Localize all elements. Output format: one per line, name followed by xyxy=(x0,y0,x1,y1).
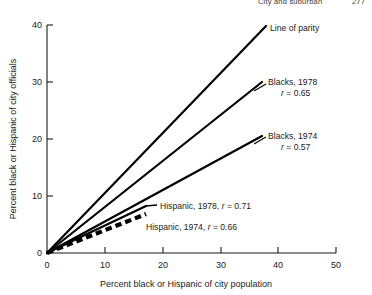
chart-annotations: Line of parity Blacks, 1978 r = 0.65 Bla… xyxy=(146,23,320,232)
y-tick-label-0: 0 xyxy=(37,248,42,258)
x-axis-title: Percent black or Hispanic of city popula… xyxy=(100,279,272,289)
scatter-line-chart: 40 30 20 10 0 0 10 20 30 40 50 Percent b… xyxy=(0,0,372,295)
annotation-blacks-1974-label: Blacks, 1974 xyxy=(268,131,317,141)
chart-series-lines xyxy=(47,26,266,253)
y-tick-label-10: 10 xyxy=(32,191,42,201)
series-hispanic-1974 xyxy=(47,214,146,253)
x-tick-label-0: 0 xyxy=(44,260,49,270)
x-tick-label-40: 40 xyxy=(273,260,283,270)
annotation-blacks-1974-r: r = 0.57 xyxy=(281,142,311,152)
y-tick-label-20: 20 xyxy=(32,134,42,144)
annotation-leader-lines xyxy=(146,84,266,206)
annotation-hispanic-1974: Hispanic, 1974, r = 0.66 xyxy=(146,222,237,232)
y-axis-ticks xyxy=(47,25,53,196)
y-tick-label-30: 30 xyxy=(32,77,42,87)
x-tick-labels: 0 10 20 30 40 50 xyxy=(44,260,341,270)
x-tick-label-20: 20 xyxy=(158,260,168,270)
x-tick-label-50: 50 xyxy=(331,260,341,270)
annotation-blacks-1978-label: Blacks, 1978 xyxy=(268,77,317,87)
y-tick-labels: 40 30 20 10 0 xyxy=(32,20,42,258)
x-axis-ticks xyxy=(105,247,336,253)
series-line-of-parity xyxy=(47,26,266,253)
x-tick-label-10: 10 xyxy=(100,260,110,270)
annotation-blacks-1978-r: r = 0.65 xyxy=(281,88,311,98)
annotation-line-of-parity: Line of parity xyxy=(270,23,320,33)
x-tick-label-30: 30 xyxy=(216,260,226,270)
leader-hispanic-1978 xyxy=(146,205,157,206)
y-tick-label-40: 40 xyxy=(32,20,42,30)
figure-container: City and suburban 277 40 30 20 xyxy=(0,0,372,295)
y-axis-title: Percent black or Hispanic of city offici… xyxy=(8,58,18,219)
annotation-hispanic-1978: Hispanic, 1978, r = 0.71 xyxy=(160,201,251,211)
series-blacks-1974 xyxy=(47,136,262,253)
